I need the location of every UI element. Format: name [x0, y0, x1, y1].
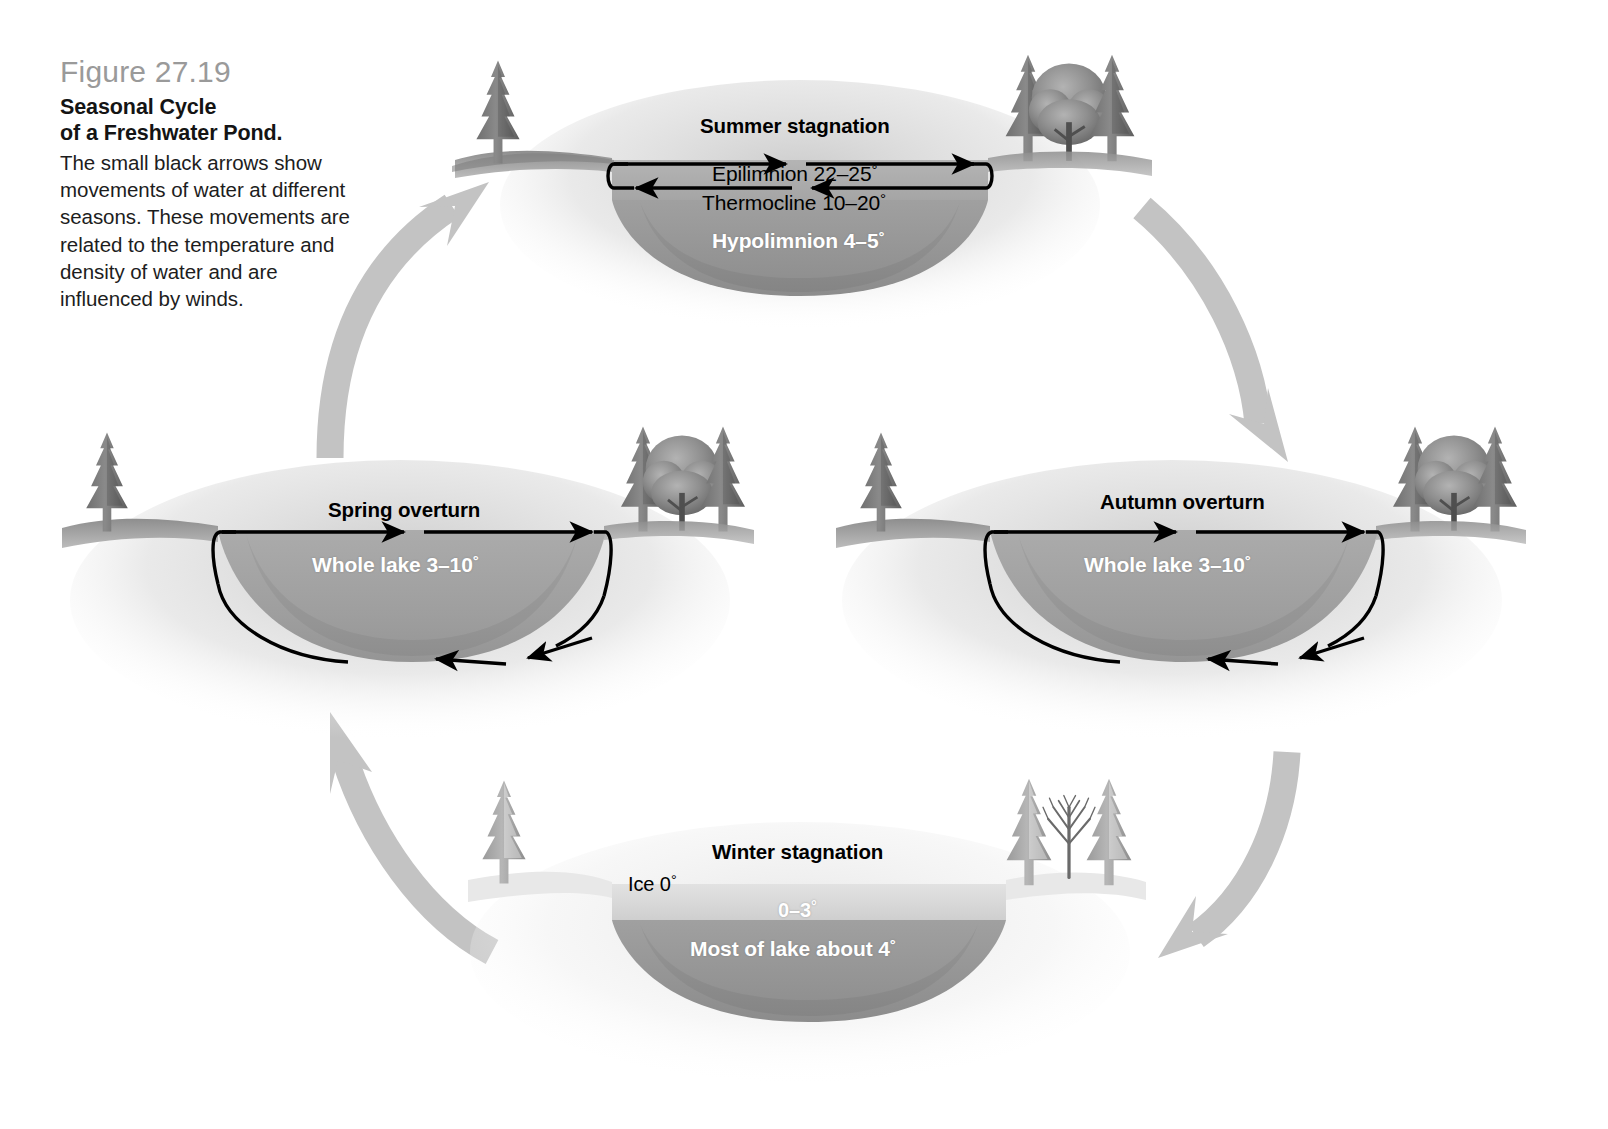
- degree-symbol: °: [811, 898, 817, 914]
- tree-conifer-autumn-left: [860, 432, 902, 531]
- cycle-arrow-winter-to-spring: [330, 712, 492, 952]
- tree-conifer-spring-left: [86, 432, 128, 531]
- layer-label-autumn-whole-lake: Whole lake 3–10°: [1084, 552, 1251, 577]
- layer-label-spring-whole-lake: Whole lake 3–10°: [312, 552, 479, 577]
- tree-conifer-winter-right-2: [1087, 779, 1132, 886]
- season-title-winter: Winter stagnation: [712, 840, 883, 864]
- tree-bare-winter-right: [1043, 796, 1095, 878]
- degree-symbol: °: [872, 161, 878, 178]
- cycle-arrow-summer-to-autumn: [1142, 208, 1288, 462]
- panel-winter: [468, 779, 1146, 1082]
- layer-label-hypolimnion: Hypolimnion 4–5°: [712, 228, 884, 253]
- season-title-spring: Spring overturn: [328, 498, 480, 522]
- cycle-arrow-autumn-to-winter: [1158, 752, 1287, 958]
- degree-symbol: °: [473, 552, 479, 569]
- layer-label-winter-deep: Most of lake about 4°: [690, 936, 896, 961]
- season-title-autumn: Autumn overturn: [1100, 490, 1265, 514]
- panel-autumn: [836, 427, 1526, 740]
- degree-symbol: °: [671, 872, 677, 888]
- tree-conifer-summer-left: [476, 61, 519, 164]
- figure-page: Figure 27.19 Seasonal Cycle of a Freshwa…: [0, 0, 1608, 1129]
- panel-spring: [62, 427, 754, 740]
- season-title-summer: Summer stagnation: [700, 114, 890, 138]
- layer-label-epilimnion: Epilimnion 22–25°: [712, 161, 877, 186]
- degree-symbol: °: [879, 228, 885, 245]
- layer-label-thermocline: Thermocline 10–20°: [702, 190, 886, 215]
- cycle-arrow-spring-to-summer: [330, 182, 489, 458]
- degree-symbol: °: [890, 936, 896, 953]
- degree-symbol: °: [880, 190, 886, 207]
- layer-label-ice: Ice 0°: [628, 872, 677, 896]
- tree-conifer-winter-left: [482, 781, 525, 884]
- layer-label-winter-upper: 0–3°: [778, 898, 817, 922]
- degree-symbol: °: [1245, 552, 1251, 569]
